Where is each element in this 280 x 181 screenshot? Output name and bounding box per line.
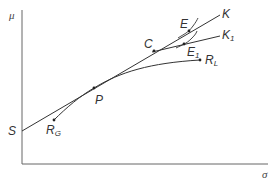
point-e	[188, 30, 191, 33]
label-s: S	[8, 125, 16, 137]
label-rg-main: R	[46, 123, 55, 137]
label-p: P	[95, 94, 103, 106]
label-e1-sub: 1	[195, 51, 199, 60]
point-p	[93, 87, 96, 90]
label-rl: RL	[205, 54, 218, 68]
line-sk	[22, 15, 220, 131]
label-rg-sub: G	[55, 129, 61, 138]
diagram-canvas	[0, 0, 280, 181]
label-rl-main: R	[205, 53, 214, 67]
x-axis-label: σ	[262, 169, 267, 180]
label-k1-sub: 1	[230, 34, 234, 43]
label-e1-main: E	[187, 45, 195, 59]
label-k1: K1	[222, 29, 234, 43]
point-c	[153, 50, 156, 53]
label-rl-sub: L	[214, 59, 218, 68]
label-k: K	[222, 8, 230, 20]
point-rg	[53, 119, 56, 122]
label-e1: E1	[187, 46, 199, 60]
point-e1	[183, 43, 186, 46]
y-axis-label: μ	[9, 10, 15, 21]
label-rg: RG	[46, 124, 61, 138]
label-c: C	[144, 38, 153, 50]
line-ck1	[152, 36, 220, 52]
label-e: E	[180, 18, 188, 30]
label-k1-main: K	[222, 28, 230, 42]
